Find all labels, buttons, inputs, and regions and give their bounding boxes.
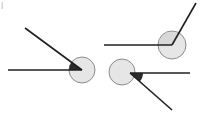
figure-3-angle-circle bbox=[109, 59, 135, 85]
angle-diagram-svg bbox=[0, 0, 199, 114]
corner-artifact-mark bbox=[2, 2, 4, 9]
angle-diagram-canvas bbox=[0, 0, 199, 114]
